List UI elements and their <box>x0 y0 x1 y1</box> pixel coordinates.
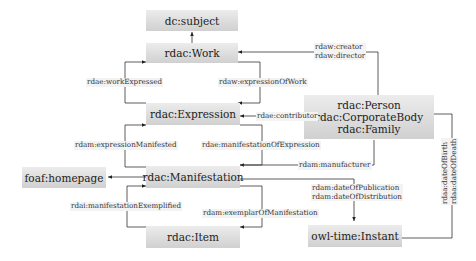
edge-label-work-expressed: rdae:workExpressed <box>86 78 163 87</box>
node-agent: rdac:Person rdac:CorporateBody rdac:Fami… <box>304 95 434 139</box>
node-rdac-manifestation: rdac:Manifestation <box>146 166 240 188</box>
node-dc-subject: dc:subject <box>146 10 238 31</box>
node-rdac-work: rdac:Work <box>146 43 238 63</box>
edge-label-creator: rdaw:creator rdaw:director <box>314 43 366 60</box>
edge-label-manifestation-exemplified: rdai:manifestationExemplified <box>70 202 182 211</box>
node-rdac-expression: rdac:Expression <box>146 103 240 125</box>
edge-label-expression-manifested: rdam:expressionManifested <box>74 141 178 150</box>
edge-label-contributor: rdae:contributor <box>256 112 318 121</box>
node-owl-time-instant: owl-time:Instant <box>308 225 402 247</box>
agent-person: rdac:Person <box>337 99 401 111</box>
edge-label-dates-publication: rdam:dateOfPublication rdam:dateOfDistri… <box>311 184 403 201</box>
label-date-of-death: rdaa:dateOfDeath <box>450 139 459 204</box>
agent-corporate-body: rdac:CorporateBody <box>315 111 423 123</box>
node-foaf-homepage: foaf:homepage <box>22 167 106 188</box>
edge-label-dates-life: rdaa:dateOfBirth rdaa:dateOfDeath <box>441 138 458 205</box>
label-date-of-distribution: rdam:dateOfDistribution <box>312 193 402 202</box>
edge-label-expression-of-work: rdaw:expressionOfWork <box>218 78 308 87</box>
label-director: rdaw:director <box>315 52 365 61</box>
node-rdac-item: rdac:Item <box>146 226 240 248</box>
edge-label-manufacturer: rdam:manufacturer <box>298 161 372 170</box>
edge-label-manifestation-of-expression: rdae:manifestationOfExpression <box>201 141 321 150</box>
edge-label-exemplar-of-manifestation: rdam:exemplarOfManifestation <box>202 209 319 218</box>
agent-family: rdac:Family <box>338 123 401 135</box>
